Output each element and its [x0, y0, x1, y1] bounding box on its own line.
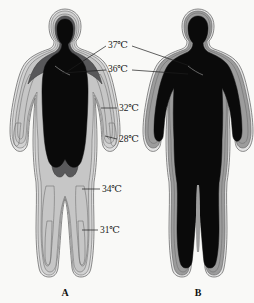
thermal-figure: 37℃ 36℃ 32℃ 28℃ 34℃ 31℃ A B: [0, 0, 254, 303]
body-figure-b: [143, 9, 253, 277]
temp-label-31: 31℃: [100, 225, 120, 235]
temp-label-28: 28℃: [119, 134, 139, 144]
temp-label-34: 34℃: [102, 184, 122, 194]
leg-gap-b: [196, 185, 200, 252]
zone-a-37-core: [42, 19, 88, 167]
temp-label-32: 32℃: [119, 103, 139, 113]
temp-label-37: 37℃: [108, 40, 128, 50]
panel-caption-a: A: [61, 287, 69, 298]
panel-caption-b: B: [195, 287, 202, 298]
panel-captions: A B: [61, 287, 201, 298]
temp-label-36: 36℃: [108, 64, 128, 74]
thermal-diagram-svg: 37℃ 36℃ 32℃ 28℃ 34℃ 31℃ A B: [0, 0, 254, 303]
body-figure-a: [10, 9, 120, 277]
